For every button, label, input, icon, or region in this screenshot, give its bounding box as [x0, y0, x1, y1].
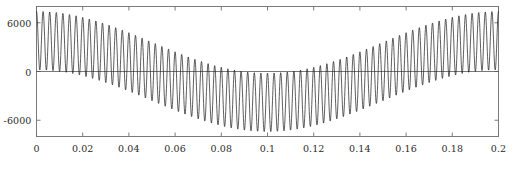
y-tick-label-1: 0: [25, 66, 31, 77]
y-tick-label-0: 6000: [7, 17, 32, 28]
x-tick-label-7: 0.14: [349, 143, 371, 154]
chart-figure: 00.020.040.060.080.10.120.140.160.180.2 …: [0, 0, 513, 172]
x-tick-label-4: 0.08: [211, 143, 233, 154]
x-tick-label-5: 0.1: [260, 143, 275, 154]
x-tick-label-1: 0.02: [72, 143, 94, 154]
x-tick-label-10: 0.2: [491, 143, 506, 154]
x-tick-label-3: 0.06: [164, 143, 186, 154]
x-tick-label-0: 0: [33, 143, 39, 154]
x-tick-label-8: 0.16: [395, 143, 417, 154]
y-tick-label-2: -6000: [4, 115, 32, 126]
x-tick-label-2: 0.04: [118, 143, 140, 154]
x-tick-label-9: 0.18: [442, 143, 464, 154]
x-tick-label-6: 0.12: [303, 143, 325, 154]
